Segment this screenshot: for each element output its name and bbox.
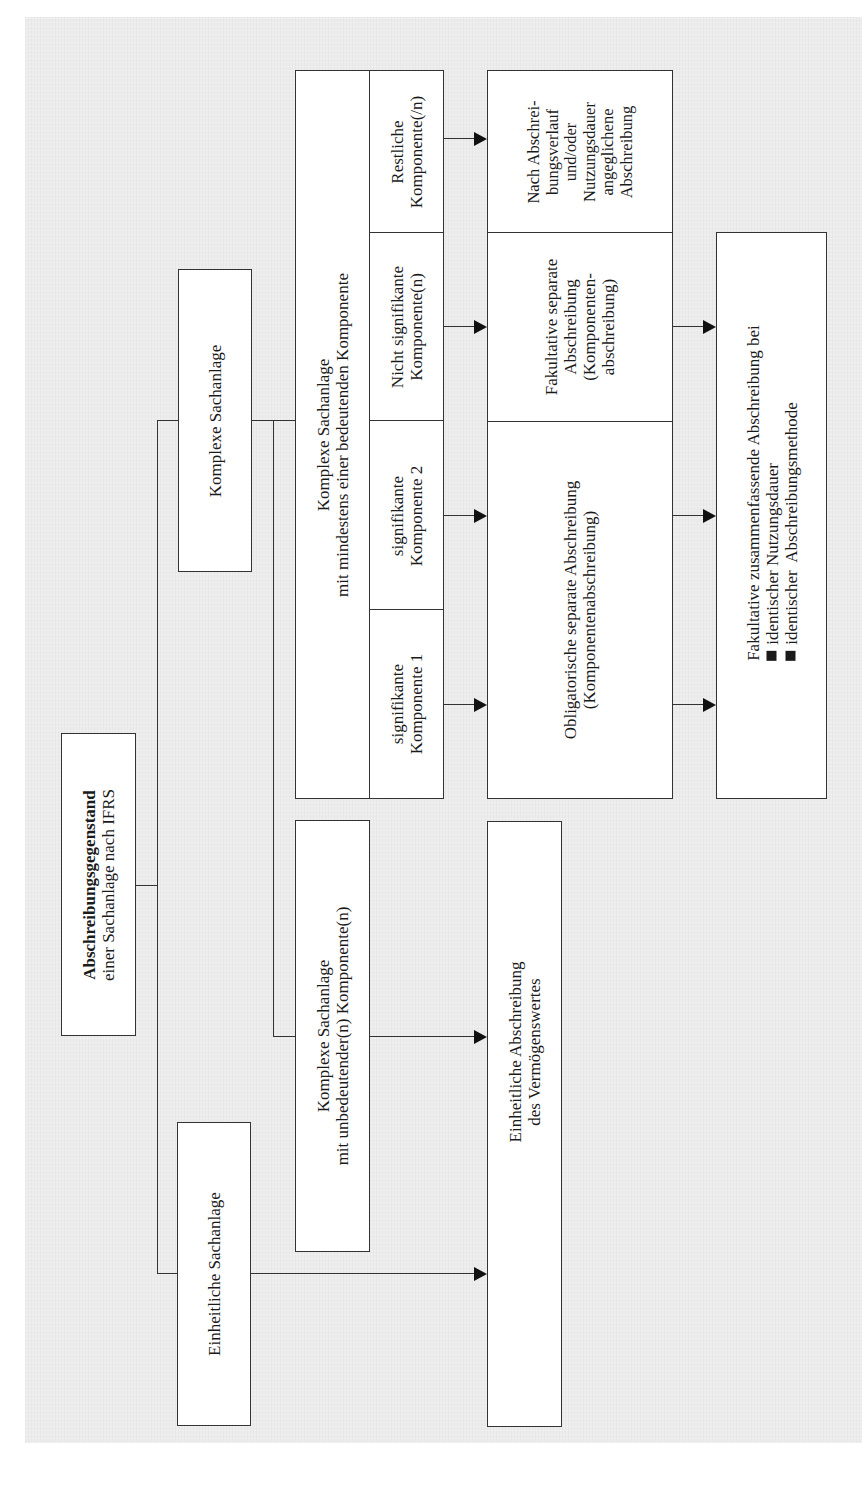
component-signifikant-2-line1: signifikante bbox=[388, 465, 407, 566]
text-line: Einheitliche Abschreibung bbox=[506, 961, 525, 1142]
komplexe-unbedeutend-box: Komplexe Sachanlage mit unbedeutender(n)… bbox=[295, 820, 370, 1252]
bullet-text: identischer Nutzungsdauer bbox=[762, 463, 781, 645]
einheitliche-abschreibung-label: Einheitliche Abschreibung des Vermögensw… bbox=[506, 961, 544, 1142]
komplexe-unbedeutend-line1: Komplexe Sachanlage bbox=[314, 907, 333, 1166]
zusammenfassend-bullet-1: identischer Nutzungsdauer bbox=[762, 325, 781, 661]
square-bullet-icon bbox=[766, 651, 776, 661]
connector-subtrunk bbox=[273, 420, 274, 1037]
root-label: Abschreibungsgegenstand einer Sachanlage… bbox=[80, 788, 118, 980]
connector-komp1-obligatorisch bbox=[443, 704, 475, 705]
text-line: bungsverlauf bbox=[543, 100, 562, 203]
treatment-angeglichen: Nach Abschrei- bungsverlauf und/oder Nut… bbox=[488, 71, 672, 233]
component-signifikant-1-line2: Komponente 1 bbox=[407, 654, 426, 755]
component-signifikant-1-label: signifikante Komponente 1 bbox=[388, 654, 426, 755]
component-restliche-line2: Komponente(/n) bbox=[407, 96, 426, 208]
component-restliche-label: Restliche Komponente(/n) bbox=[388, 96, 426, 208]
komplexe-unbedeutend-line2: mit unbedeutender(n) Komponente(n) bbox=[333, 907, 352, 1166]
component-signifikant-1-line1: signifikante bbox=[388, 654, 407, 755]
connector-restliche-angeglichen bbox=[443, 138, 475, 139]
zusammenfassend-box: Fakultative zusammenfassende Abschreibun… bbox=[716, 232, 827, 799]
connector-trunk-einheitlich bbox=[157, 1273, 177, 1274]
text-line: (Komponenten- bbox=[580, 259, 599, 395]
component-signifikant-2-line2: Komponente 2 bbox=[407, 465, 426, 566]
treatment-obligatorisch-label: Obligatorische separate Abschreibung (Ko… bbox=[561, 481, 599, 740]
text-line: angeglichene bbox=[599, 100, 618, 203]
zusammenfassend-label: Fakultative zusammenfassende Abschreibun… bbox=[743, 325, 800, 661]
komplexe-bedeutend-header: Komplexe Sachanlage mit mindestens einer… bbox=[296, 71, 370, 798]
treatment-angeglichen-label: Nach Abschrei- bungsverlauf und/oder Nut… bbox=[525, 100, 636, 203]
component-restliche: Restliche Komponente(/n) bbox=[370, 71, 443, 233]
arrow-head-icon bbox=[474, 698, 487, 712]
connector-trunk-komplexe bbox=[157, 420, 178, 421]
treatment-obligatorisch: Obligatorische separate Abschreibung (Ko… bbox=[488, 422, 672, 798]
text-line: Abschreibung bbox=[561, 259, 580, 395]
einheitliche-sachanlage-label: Einheitliche Sachanlage bbox=[205, 1192, 224, 1356]
komplexe-bedeutend-box: Komplexe Sachanlage mit mindestens einer… bbox=[295, 70, 444, 799]
component-nicht-signifikant-line1: Nicht signifikante bbox=[388, 266, 407, 388]
text-line: Abschreibung bbox=[617, 100, 636, 203]
connector-subtrunk-unbedeutend bbox=[273, 1036, 295, 1037]
komplexe-sachanlage-box: Komplexe Sachanlage bbox=[178, 269, 252, 572]
einheitliche-abschreibung-box: Einheitliche Abschreibung des Vermögensw… bbox=[487, 821, 562, 1427]
text-line: Obligatorische separate Abschreibung bbox=[561, 481, 580, 740]
connector-einheitlich-abschreibung bbox=[250, 1273, 475, 1274]
text-line: Fakultative separate bbox=[542, 259, 561, 395]
treatment-fakultativ-separat-label: Fakultative separate Abschreibung (Kompo… bbox=[542, 259, 618, 395]
root-title: Abschreibungsgegenstand bbox=[80, 788, 99, 980]
connector-unbedeutend-einheitlich bbox=[369, 1036, 475, 1037]
component-nicht-signifikant-line2: Komponente(n) bbox=[407, 266, 426, 388]
component-nicht-signifikant-label: Nicht signifikante Komponente(n) bbox=[388, 266, 426, 388]
arrow-head-icon bbox=[474, 509, 487, 523]
komplexe-bedeutend-line2: mit mindestens einer bedeutenden Kompone… bbox=[333, 273, 352, 597]
connector-nichtsig-fakultativ bbox=[443, 326, 475, 327]
component-nicht-signifikant: Nicht signifikante Komponente(n) bbox=[370, 233, 443, 421]
bullet-text: identischer Abschreibungsmethode bbox=[781, 402, 800, 645]
text-line: abschreibung) bbox=[599, 259, 618, 395]
component-signifikant-1: signifikante Komponente 1 bbox=[370, 610, 443, 798]
komplexe-bedeutend-line1: Komplexe Sachanlage bbox=[314, 273, 333, 597]
text-line: (Komponentenabschreibung) bbox=[580, 481, 599, 740]
komplexe-bedeutend-label: Komplexe Sachanlage mit mindestens einer… bbox=[314, 273, 352, 597]
komplexe-sachanlage-label: Komplexe Sachanlage bbox=[206, 344, 225, 496]
zusammenfassend-heading: Fakultative zusammenfassende Abschreibun… bbox=[743, 325, 762, 661]
connector-root-trunk bbox=[135, 885, 157, 886]
arrow-head-icon bbox=[474, 1267, 487, 1281]
connector-komp2-obligatorisch bbox=[443, 515, 475, 516]
connector-obligatorisch-zusammen-2 bbox=[672, 515, 704, 516]
arrow-head-icon bbox=[474, 320, 487, 334]
square-bullet-icon bbox=[785, 651, 795, 661]
connector-main-trunk bbox=[157, 420, 158, 1274]
component-signifikant-2: signifikante Komponente 2 bbox=[370, 421, 443, 610]
root-box: Abschreibungsgegenstand einer Sachanlage… bbox=[61, 733, 136, 1036]
arrow-head-icon bbox=[703, 320, 716, 334]
arrow-head-icon bbox=[474, 1030, 487, 1044]
arrow-head-icon bbox=[703, 698, 716, 712]
arrow-head-icon bbox=[703, 509, 716, 523]
zusammenfassend-bullet-2: identischer Abschreibungsmethode bbox=[781, 325, 800, 661]
text-line: Nach Abschrei- bbox=[525, 100, 544, 203]
treatment-column: Nach Abschrei- bungsverlauf und/oder Nut… bbox=[487, 70, 673, 799]
arrow-head-icon bbox=[474, 132, 487, 146]
text-line: Nutzungsdauer bbox=[580, 100, 599, 203]
connector-obligatorisch-zusammen-1 bbox=[672, 704, 704, 705]
treatment-fakultativ-separat: Fakultative separate Abschreibung (Kompo… bbox=[488, 233, 672, 421]
text-line: und/oder bbox=[562, 100, 581, 203]
text-line: des Vermögenswertes bbox=[525, 961, 544, 1142]
component-restliche-line1: Restliche bbox=[388, 96, 407, 208]
connector-fakultativ-zusammen bbox=[672, 326, 704, 327]
einheitliche-sachanlage-box: Einheitliche Sachanlage bbox=[177, 1122, 251, 1426]
component-signifikant-2-label: signifikante Komponente 2 bbox=[388, 465, 426, 566]
root-subtitle: einer Sachanlage nach IFRS bbox=[99, 788, 118, 980]
komplexe-unbedeutend-label: Komplexe Sachanlage mit unbedeutender(n)… bbox=[314, 907, 352, 1166]
